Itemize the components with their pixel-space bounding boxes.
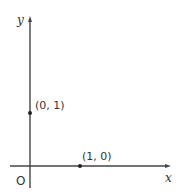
coordinate-plane: y x O (0, 1) (1, 0) <box>0 0 182 196</box>
y-axis-label: y <box>16 13 24 27</box>
origin-label: O <box>16 174 25 188</box>
point-0-1-label: (0, 1) <box>35 99 65 112</box>
point-1-0-label: (1, 0) <box>82 150 112 163</box>
point-0-1-marker <box>28 111 32 115</box>
y-axis-arrow-icon <box>28 16 32 22</box>
point-1-0-marker <box>78 164 82 168</box>
x-axis-arrow-icon <box>165 164 171 168</box>
x-axis-label: x <box>165 171 172 185</box>
